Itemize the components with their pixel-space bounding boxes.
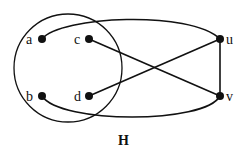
vertex-a-dot (38, 35, 46, 43)
vertex-d-label: d (74, 89, 81, 104)
edge-a-u (42, 19, 220, 39)
graph-diagram: a b c d u v H (0, 0, 246, 149)
vertex-c-dot (85, 35, 93, 43)
graph-title: H (118, 133, 129, 148)
vertex-u-label: u (226, 32, 233, 47)
vertex-c-label: c (74, 32, 80, 47)
vertex-v-label: v (226, 89, 233, 104)
vertex-a-label: a (26, 32, 33, 47)
vertex-b-dot (38, 92, 46, 100)
vertex-b-label: b (26, 89, 33, 104)
vertex-u-dot (216, 35, 224, 43)
vertex-d-dot (85, 92, 93, 100)
vertex-subset-circle (14, 14, 122, 122)
vertex-v-dot (216, 92, 224, 100)
edge-b-v (42, 96, 220, 117)
